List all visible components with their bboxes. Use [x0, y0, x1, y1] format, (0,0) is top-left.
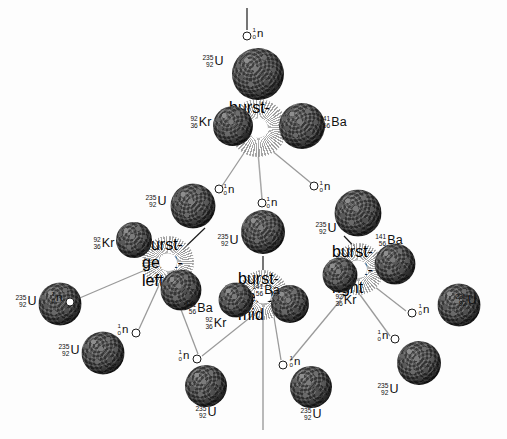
isotope-label: 23592U — [315, 221, 336, 236]
atomic-number: 0 — [319, 187, 322, 194]
atomic-number: 0 — [418, 310, 421, 317]
nucleus-sphere — [335, 190, 382, 237]
element-symbol: Kr — [344, 294, 357, 307]
nucleus-sphere — [116, 222, 152, 258]
isotope-numbers: 23592 — [217, 233, 228, 248]
isotope-label: 14156Ba — [375, 233, 403, 248]
element-symbol: U — [157, 195, 166, 208]
isotope-numbers: 23592 — [202, 54, 213, 69]
isotope-numbers: 10 — [178, 349, 181, 363]
element-symbol: U — [467, 294, 476, 307]
atomic-number: 36 — [93, 243, 100, 250]
nucleus-sphere — [213, 106, 253, 146]
nucleus-sphere — [279, 103, 325, 149]
element-symbol: U — [70, 344, 79, 357]
atomic-number: 0 — [178, 356, 181, 363]
isotope-label: 10n — [266, 196, 277, 210]
neutron-particle — [258, 199, 267, 208]
isotope-numbers: 23592 — [145, 194, 156, 209]
isotope-label: 9236Kr — [190, 115, 211, 130]
fission-chain-reaction-diagram: burst-gen1burst-gen2-leftburst-gen2-midb… — [0, 0, 507, 439]
element-symbol: Kr — [102, 237, 115, 250]
atomic-number: 92 — [377, 389, 388, 396]
atomic-number: 0 — [289, 362, 292, 369]
isotope-numbers: 9236 — [190, 115, 197, 130]
isotope-label: 23592U — [455, 293, 476, 308]
isotope-numbers: 10 — [377, 329, 380, 343]
atomic-number: 92 — [300, 414, 311, 421]
element-symbol: n — [228, 184, 235, 196]
nucleus-sphere — [397, 341, 441, 385]
isotope-label: 10n — [117, 323, 128, 337]
mass-number: 141 — [319, 115, 330, 122]
isotope-numbers: 10 — [319, 180, 322, 194]
mass-number: 92 — [93, 236, 100, 243]
isotope-label: 9236Kr — [93, 236, 114, 251]
mass-number: 235 — [315, 221, 326, 228]
isotope-numbers: 23592 — [300, 407, 311, 422]
mass-number: 235 — [377, 382, 388, 389]
mass-number: 92 — [205, 316, 212, 323]
mass-number: 92 — [190, 115, 197, 122]
element-symbol: U — [229, 234, 238, 247]
isotope-label: 9236Kr — [335, 293, 356, 308]
isotope-label: 10n — [289, 355, 300, 369]
nucleus-sphere — [375, 244, 416, 285]
isotope-label: 14156Ba — [252, 283, 280, 298]
element-symbol: Kr — [214, 317, 227, 330]
isotope-numbers: 9236 — [335, 293, 342, 308]
isotope-label: 23592U — [15, 294, 36, 309]
isotope-numbers: 14156 — [185, 301, 196, 316]
element-symbol: n — [183, 350, 190, 362]
mass-number: 235 — [15, 294, 26, 301]
isotope-numbers: 10 — [266, 196, 269, 210]
isotope-numbers: 23592 — [455, 293, 466, 308]
neutron-particle — [132, 329, 141, 338]
neutron-particle — [391, 335, 400, 344]
mass-number: 92 — [335, 293, 342, 300]
mass-number: 235 — [195, 405, 206, 412]
isotope-label: 9236Kr — [205, 316, 226, 331]
atomic-number: 92 — [315, 228, 326, 235]
isotope-numbers: 23592 — [15, 294, 26, 309]
nucleus-sphere — [241, 210, 285, 254]
mass-number: 235 — [202, 54, 213, 61]
atomic-number: 56 — [319, 122, 330, 129]
isotope-numbers: 10 — [252, 27, 255, 41]
isotope-label: 23592U — [195, 405, 216, 420]
element-symbol: U — [312, 408, 321, 421]
isotope-label: 23592U — [58, 343, 79, 358]
element-symbol: U — [207, 406, 216, 419]
atomic-number: 92 — [145, 201, 156, 208]
atomic-number: 92 — [217, 240, 228, 247]
element-symbol: U — [389, 383, 398, 396]
element-symbol: Ba — [387, 234, 403, 247]
isotope-label: 10n — [252, 27, 263, 41]
neutron-particle — [215, 185, 224, 194]
element-symbol: n — [257, 28, 264, 40]
isotope-label: 23592U — [377, 382, 398, 397]
mass-number: 235 — [217, 233, 228, 240]
isotope-numbers: 14156 — [375, 233, 386, 248]
isotope-label: 23592U — [217, 233, 238, 248]
mass-number: 235 — [455, 293, 466, 300]
atomic-number: 0 — [223, 190, 226, 197]
element-symbol: Ba — [264, 284, 280, 297]
element-symbol: Ba — [331, 116, 347, 129]
atomic-number: 92 — [58, 350, 69, 357]
isotope-numbers: 23592 — [195, 405, 206, 420]
isotope-label: 10n — [178, 349, 189, 363]
isotope-label: 10n — [377, 329, 388, 343]
mass-number: 141 — [252, 283, 263, 290]
isotope-numbers: 9236 — [93, 236, 100, 251]
nucleus-sphere — [185, 365, 227, 407]
element-symbol: n — [423, 304, 430, 316]
neutron-particle — [279, 361, 288, 370]
isotope-numbers: 10 — [117, 323, 120, 337]
element-symbol: n — [56, 292, 63, 304]
isotope-numbers: 9236 — [205, 316, 212, 331]
isotope-label: 10n — [319, 180, 330, 194]
atomic-number: 0 — [252, 34, 255, 41]
isotope-label: 14156Ba — [185, 301, 213, 316]
mass-number: 235 — [145, 194, 156, 201]
